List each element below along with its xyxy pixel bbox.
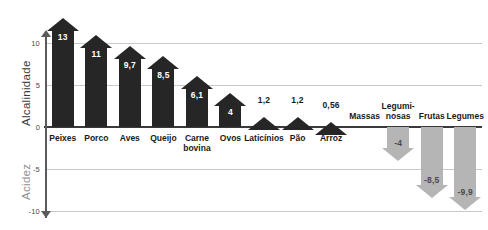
bar-arroz	[320, 122, 342, 127]
category-label-queijo: Queijo	[150, 133, 176, 143]
category-label-carne-bovina: Carne bovina	[183, 133, 210, 153]
y-axis-line	[45, 36, 47, 218]
value-label-ovos: 4	[228, 107, 233, 117]
bar-laticínios	[253, 117, 275, 127]
value-label-queijo: 8,5	[157, 70, 169, 80]
arrow-up-icon	[181, 76, 213, 89]
gridline--10	[46, 211, 482, 212]
bar-queijo	[152, 56, 174, 127]
category-label-frutas: Frutas	[419, 111, 445, 121]
bar-pão	[287, 117, 309, 127]
category-label-aves: Aves	[120, 133, 140, 143]
bar-shaft	[52, 31, 74, 127]
arrow-up-icon	[248, 117, 280, 130]
value-label-arroz: 0,56	[322, 100, 339, 110]
gridline-5	[46, 85, 482, 86]
bar-frutas	[421, 127, 443, 198]
y-axis-title-acidity: Acidez	[20, 164, 32, 200]
y-axis-title-alkalinity: Alcalinidade	[20, 60, 32, 126]
arrow-up-icon	[47, 18, 79, 31]
category-label-massas: Massas	[349, 111, 380, 121]
category-label-peixes: Peixes	[49, 133, 76, 143]
arrow-up-icon	[80, 35, 112, 48]
value-label-carne-bovina: 6,1	[191, 90, 203, 100]
value-label-leguminosas: -4	[394, 138, 402, 148]
arrow-up-icon	[147, 56, 179, 69]
arrow-down-icon	[449, 197, 481, 210]
y-tick-label-10: 10	[0, 39, 40, 48]
category-label-arroz: Arroz	[320, 133, 342, 143]
arrow-up-icon	[282, 117, 314, 130]
category-label-ovos: Ovos	[220, 133, 241, 143]
arrow-up-icon	[114, 46, 146, 59]
value-label-pão: 1,2	[291, 95, 303, 105]
bar-shaft	[85, 48, 107, 127]
value-label-frutas: -8,5	[424, 175, 439, 185]
y-axis-bottom-arrow-icon	[41, 211, 51, 218]
alkalinity-acidity-chart: 1050-5-10 Alcalinidade Acidez 13119,78,5…	[0, 0, 488, 230]
category-label-pão: Pão	[290, 133, 306, 143]
bar-aves	[119, 46, 141, 127]
value-label-peixes: 13	[58, 32, 68, 42]
bar-legumes	[454, 127, 476, 210]
y-axis-top-arrow-icon	[41, 30, 51, 37]
arrow-up-icon	[214, 93, 246, 106]
value-label-laticínios: 1,2	[258, 95, 270, 105]
value-label-porco: 11	[92, 49, 101, 59]
plot-area: 1050-5-10 Alcalinidade Acidez 13119,78,5…	[0, 0, 488, 230]
gridline--5	[46, 169, 482, 170]
value-label-aves: 9,7	[124, 60, 136, 70]
bar-carne-bovina	[186, 76, 208, 127]
y-tick-label--10: -10	[0, 207, 40, 216]
category-label-legumes: Legumes	[447, 111, 484, 121]
arrow-down-icon	[382, 148, 414, 161]
category-label-laticínios: Laticínios	[244, 133, 284, 143]
category-label-leguminosas: Legumi- nosas	[382, 101, 415, 121]
value-label-legumes: -9,9	[457, 187, 472, 197]
category-label-porco: Porco	[84, 133, 108, 143]
arrow-down-icon	[416, 185, 448, 198]
